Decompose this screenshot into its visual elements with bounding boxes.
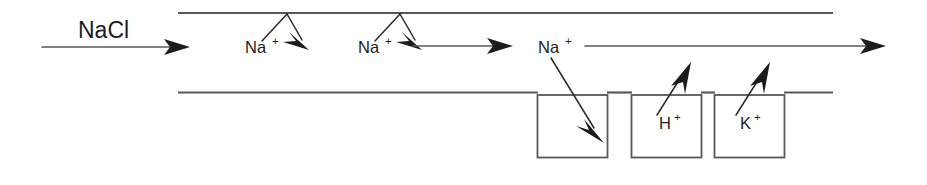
sodium-crossing-2-arrowhead (396, 32, 422, 50)
sodium-label-2-charge: + (385, 35, 392, 47)
sodium-label-3-charge: + (565, 35, 572, 47)
nephron-transport-diagram: NaCl Na + Na + Na + H + K + (0, 0, 927, 185)
sodium-crossing-1-arrowhead (283, 32, 309, 50)
sodium-label-3: Na + (538, 35, 572, 56)
hydrogen-label-charge: + (674, 111, 681, 123)
sodium-reabsorption-2-arrow (375, 14, 422, 50)
sodium-label-2: Na + (358, 35, 392, 56)
lumen-flow-arrow-2 (585, 38, 886, 54)
lumen-flow-arrow-1 (413, 38, 513, 54)
sodium-crossing-2-outbound-leg (400, 14, 415, 40)
sodium-label-1-charge: + (272, 35, 279, 47)
hydrogen-label-base: H (659, 114, 671, 132)
diagram-canvas: NaCl Na + Na + Na + H + K + (0, 0, 927, 185)
sodium-label-1: Na + (245, 35, 279, 56)
potassium-label-base: K (740, 114, 751, 132)
potassium-label-charge: + (754, 111, 761, 123)
sodium-crossing-1-outbound-leg (287, 14, 302, 40)
sodium-label-1-base: Na (245, 38, 267, 56)
nacl-label: NaCl (78, 17, 129, 43)
sodium-channel-box[interactable] (538, 95, 608, 158)
sodium-reabsorption-1-arrow (262, 14, 309, 50)
sodium-label-3-base: Na (538, 38, 560, 56)
sodium-label-2-base: Na (358, 38, 380, 56)
